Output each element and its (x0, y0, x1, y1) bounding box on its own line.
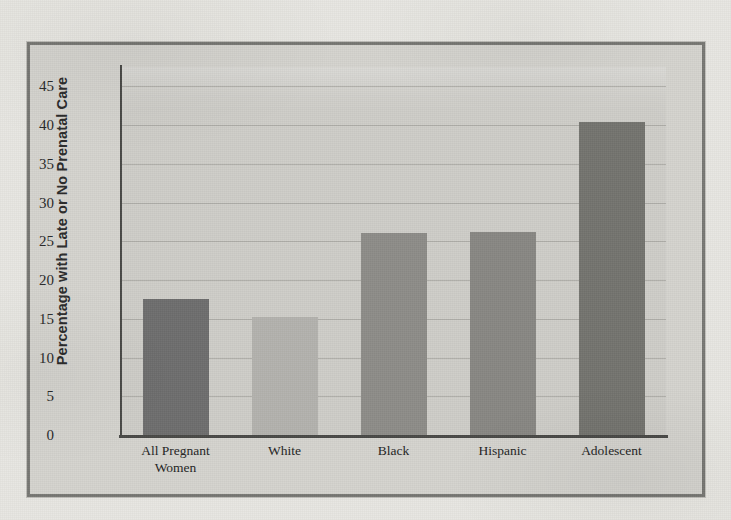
bar (361, 233, 427, 435)
y-tick-label: 40 (14, 117, 54, 134)
y-axis-title: Percentage with Late or No Prenatal Care (54, 41, 70, 401)
y-tick-label: 45 (14, 78, 54, 95)
gridline (121, 86, 666, 87)
x-category-label: Adolescent (557, 443, 666, 460)
bar (143, 299, 209, 435)
x-label-line: Hispanic (448, 443, 557, 460)
y-tick-label: 20 (14, 272, 54, 289)
y-tick-label: 0 (14, 427, 54, 444)
x-label-line: All Pregnant (121, 443, 230, 460)
x-category-label: Black (339, 443, 448, 460)
bar (252, 317, 318, 435)
bar-chart: Percentage with Late or No Prenatal Care… (30, 45, 702, 494)
figure-frame: Percentage with Late or No Prenatal Care… (27, 42, 705, 497)
x-category-label: All PregnantWomen (121, 443, 230, 477)
x-label-line: Women (121, 460, 230, 477)
y-tick-label: 25 (14, 233, 54, 250)
y-tick-label: 5 (14, 388, 54, 405)
bar (470, 232, 536, 435)
y-tick-label: 35 (14, 155, 54, 172)
y-axis-line (120, 65, 122, 437)
x-label-line: White (230, 443, 339, 460)
x-axis-line (119, 435, 668, 438)
y-tick-label: 15 (14, 310, 54, 327)
bar (579, 122, 645, 435)
y-tick-label: 10 (14, 349, 54, 366)
x-label-line: Black (339, 443, 448, 460)
x-category-label: White (230, 443, 339, 460)
y-tick-label: 30 (14, 194, 54, 211)
x-category-label: Hispanic (448, 443, 557, 460)
plot-region (121, 67, 666, 435)
x-label-line: Adolescent (557, 443, 666, 460)
